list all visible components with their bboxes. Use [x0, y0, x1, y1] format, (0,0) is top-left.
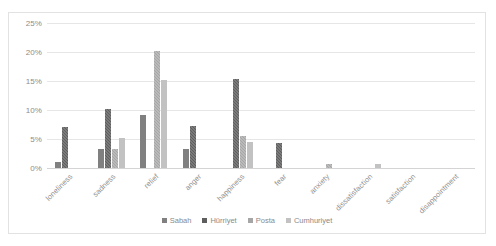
legend-label: Sabah: [170, 216, 192, 225]
y-axis-tick-label: 25%: [26, 19, 42, 28]
bar: [105, 109, 111, 168]
bar-group: [304, 23, 347, 168]
bar: [154, 51, 160, 168]
bar: [375, 164, 381, 168]
bar-group: [47, 23, 90, 168]
bar-group: [389, 23, 432, 168]
bar: [326, 164, 332, 168]
bar-group: [175, 23, 218, 168]
bar: [55, 162, 61, 168]
y-axis-tick-label: 5%: [30, 135, 42, 144]
legend-label: Hürriyet: [210, 216, 236, 225]
bar-series-group: [47, 23, 475, 168]
bar: [276, 143, 282, 168]
legend-item[interactable]: Cumhuriyet: [286, 216, 332, 225]
chart-legend: SabahHürriyetPostaCumhuriyet: [9, 216, 485, 225]
x-axis-label: satisfaction: [383, 172, 417, 206]
bar: [62, 127, 68, 168]
y-axis-tick-label: 15%: [26, 77, 42, 86]
bar: [183, 149, 189, 168]
y-axis-tick-label: 20%: [26, 48, 42, 57]
legend-item[interactable]: Hürriyet: [202, 216, 236, 225]
x-axis-label: happiness: [215, 172, 246, 203]
bar-group: [261, 23, 304, 168]
bar: [98, 149, 104, 168]
x-axis-label: relief: [142, 172, 160, 190]
x-axis-label: fear: [273, 172, 289, 188]
bar: [119, 138, 125, 168]
chart-container: 0%5%10%15%20%25% lonelinesssadnessrelief…: [8, 12, 486, 234]
bar-group: [90, 23, 133, 168]
x-axis-label: anxiety: [308, 172, 332, 196]
plot-area: 0%5%10%15%20%25%: [47, 23, 475, 168]
bar-group: [432, 23, 475, 168]
legend-item[interactable]: Sabah: [162, 216, 192, 225]
legend-swatch-icon: [202, 218, 207, 223]
legend-swatch-icon: [162, 218, 167, 223]
bar: [190, 126, 196, 168]
bar: [112, 149, 118, 168]
y-axis-tick-label: 10%: [26, 106, 42, 115]
legend-label: Cumhuriyet: [294, 216, 332, 225]
x-axis-label: loneliness: [44, 172, 75, 203]
bar-group: [218, 23, 261, 168]
legend-item[interactable]: Posta: [248, 216, 275, 225]
bar-group: [347, 23, 390, 168]
legend-swatch-icon: [286, 218, 291, 223]
bar: [247, 142, 253, 168]
gridline: [47, 168, 475, 169]
bar: [240, 136, 246, 168]
x-axis-label: sadness: [91, 172, 118, 199]
bar: [233, 79, 239, 168]
bar-group: [133, 23, 176, 168]
y-axis-tick-label: 0%: [30, 164, 42, 173]
bar: [161, 80, 167, 168]
x-axis-label: anger: [183, 172, 203, 192]
legend-label: Posta: [256, 216, 275, 225]
legend-swatch-icon: [248, 218, 253, 223]
bar: [140, 115, 146, 168]
